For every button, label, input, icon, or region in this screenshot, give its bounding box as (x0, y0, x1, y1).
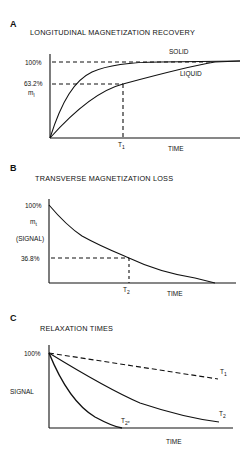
t1-curve (49, 353, 218, 379)
t2star-curve (49, 353, 122, 428)
solid-curve (50, 61, 240, 138)
mt-curve (49, 205, 215, 283)
liquid-curve (50, 61, 240, 138)
chart-canvas (0, 0, 247, 456)
t2-curve (49, 353, 219, 422)
